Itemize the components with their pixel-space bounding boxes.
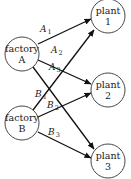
node-plant-1-line2: 1	[105, 16, 111, 27]
node-plant-3-line1: plant	[96, 150, 121, 161]
node-factory-a: factory A	[5, 37, 40, 71]
node-factory-a-line2: A	[18, 54, 26, 65]
transport-network-diagram: factory A factory B plant 1 plant 2 plan…	[0, 0, 131, 179]
node-factory-b: factory B	[5, 106, 40, 140]
edge-a3	[33, 67, 94, 149]
node-plant-1-line1: plant	[96, 5, 121, 16]
node-factory-b-line2: B	[19, 123, 26, 134]
edge-label-a3: A3	[48, 62, 61, 74]
node-plant-2-line1: plant	[96, 79, 121, 90]
edge-label-b1: B1	[34, 89, 47, 101]
node-factory-b-line1: factory	[5, 112, 40, 123]
node-plant-1: plant 1	[91, 0, 125, 33]
node-plant-3-line2: 3	[105, 161, 111, 172]
node-plant-3: plant 3	[91, 144, 125, 178]
node-plant-2-line2: 2	[105, 90, 111, 101]
edge-a2	[38, 60, 91, 84]
node-plant-2: plant 2	[91, 73, 125, 107]
node-factory-a-line1: factory	[5, 43, 40, 54]
edges	[33, 19, 94, 158]
edge-label-a1: A1	[39, 24, 52, 36]
edge-label-a2: A2	[50, 45, 63, 57]
edge-b3	[38, 132, 91, 158]
